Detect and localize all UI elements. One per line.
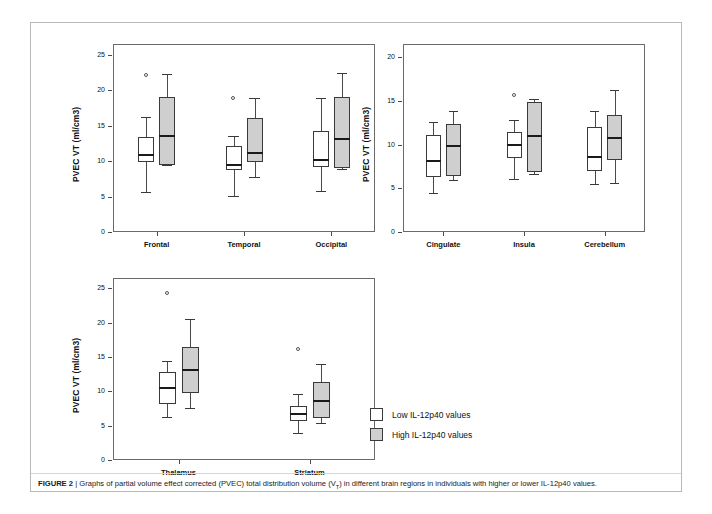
whisker-cap-lower bbox=[590, 184, 600, 185]
y-axis-tick-mark bbox=[398, 57, 402, 58]
y-axis-tick-mark bbox=[108, 323, 112, 324]
box-iqr bbox=[313, 131, 329, 168]
y-axis-tick-label: 0 bbox=[375, 228, 395, 235]
caption-text-part2: ) in different brain regions in individu… bbox=[339, 479, 597, 488]
box-iqr bbox=[426, 135, 441, 177]
chart-legend: Low IL-12p40 values High IL-12p40 values bbox=[370, 408, 472, 448]
whisker-upper bbox=[321, 364, 322, 383]
whisker-lower bbox=[514, 158, 515, 179]
caption-divider bbox=[31, 473, 681, 474]
x-axis-category-label: Cingulate bbox=[403, 240, 483, 249]
y-axis-tick-label: 5 bbox=[85, 193, 105, 200]
whisker-upper bbox=[514, 120, 515, 132]
outlier-point bbox=[165, 291, 169, 295]
whisker-cap-upper bbox=[162, 361, 173, 362]
legend-swatch-low-icon bbox=[370, 408, 383, 421]
whisker-cap-lower bbox=[293, 433, 304, 434]
whisker-cap-upper bbox=[316, 364, 327, 365]
whisker-cap-upper bbox=[293, 394, 304, 395]
y-axis-tick-mark bbox=[398, 101, 402, 102]
whisker-upper bbox=[255, 98, 256, 119]
y-axis-tick-label: 25 bbox=[85, 284, 105, 291]
whisker-cap-lower bbox=[249, 177, 259, 178]
whisker-cap-upper bbox=[610, 90, 620, 91]
whisker-cap-lower bbox=[610, 183, 620, 184]
whisker-cap-lower bbox=[162, 165, 172, 166]
median-line bbox=[159, 387, 176, 389]
x-axis-tick-mark bbox=[244, 232, 245, 236]
y-axis-tick-label: 5 bbox=[375, 184, 395, 191]
whisker-cap-upper bbox=[509, 120, 519, 121]
y-axis-tick-label: 20 bbox=[85, 86, 105, 93]
whisker-cap-lower bbox=[141, 192, 151, 193]
median-line bbox=[446, 145, 461, 147]
y-axis-tick-mark bbox=[108, 126, 112, 127]
whisker-lower bbox=[615, 160, 616, 183]
median-line bbox=[159, 135, 175, 137]
y-axis-tick-label: 15 bbox=[85, 122, 105, 129]
whisker-cap-lower bbox=[429, 193, 439, 194]
whisker-cap-lower bbox=[509, 179, 519, 180]
median-line bbox=[313, 400, 330, 402]
box-iqr bbox=[587, 127, 602, 171]
whisker-cap-upper bbox=[337, 73, 347, 74]
whisker-upper bbox=[167, 74, 168, 97]
whisker-cap-lower bbox=[162, 417, 173, 418]
median-line bbox=[313, 159, 329, 161]
x-axis-tick-mark bbox=[443, 232, 444, 236]
x-axis-tick-mark bbox=[157, 232, 158, 236]
whisker-upper bbox=[146, 117, 147, 137]
whisker-lower bbox=[595, 171, 596, 184]
whisker-cap-upper bbox=[316, 98, 326, 99]
x-axis-category-label: Cerebellum bbox=[565, 240, 645, 249]
box-iqr bbox=[138, 137, 154, 163]
y-axis-tick-mark bbox=[108, 288, 112, 289]
figure-caption: FIGURE 2 | Graphs of partial volume effe… bbox=[38, 479, 678, 491]
y-axis-tick-label: 25 bbox=[85, 51, 105, 58]
median-line bbox=[507, 144, 522, 146]
x-axis-tick-mark bbox=[524, 232, 525, 236]
whisker-upper bbox=[298, 394, 299, 406]
whisker-lower bbox=[433, 177, 434, 193]
whisker-upper bbox=[342, 73, 343, 97]
x-axis-tick-mark bbox=[179, 460, 180, 464]
whisker-cap-lower bbox=[316, 191, 326, 192]
y-axis-tick-label: 20 bbox=[85, 319, 105, 326]
box-iqr bbox=[247, 118, 263, 162]
y-axis-tick-label: 10 bbox=[85, 387, 105, 394]
y-axis-tick-label: 10 bbox=[375, 141, 395, 148]
median-line bbox=[334, 138, 350, 140]
whisker-cap-upper bbox=[449, 111, 459, 112]
box-iqr bbox=[446, 124, 461, 176]
box-iqr bbox=[226, 146, 242, 170]
median-line bbox=[527, 135, 542, 137]
box-iqr bbox=[159, 97, 175, 164]
x-axis-tick-mark bbox=[605, 232, 606, 236]
outlier-point bbox=[296, 347, 300, 351]
whisker-lower bbox=[234, 170, 235, 196]
whisker-cap-upper bbox=[590, 111, 600, 112]
whisker-cap-upper bbox=[141, 117, 151, 118]
figure-root: PVEC VT (ml/cm3)0510152025FrontalTempora… bbox=[0, 0, 712, 514]
plot-area bbox=[113, 278, 375, 460]
caption-separator: | bbox=[75, 479, 77, 488]
whisker-cap-lower bbox=[316, 423, 327, 424]
whisker-cap-upper bbox=[162, 74, 172, 75]
whisker-cap-upper bbox=[529, 99, 539, 100]
whisker-lower bbox=[298, 421, 299, 433]
whisker-lower bbox=[146, 162, 147, 191]
whisker-cap-lower bbox=[449, 180, 459, 181]
y-axis-tick-mark bbox=[108, 197, 112, 198]
y-axis-title: PVEC VT (ml/cm3) bbox=[71, 107, 81, 182]
whisker-lower bbox=[255, 162, 256, 176]
y-axis-tick-label: 0 bbox=[85, 228, 105, 235]
y-axis-tick-label: 15 bbox=[85, 353, 105, 360]
median-line bbox=[247, 152, 263, 154]
whisker-cap-upper bbox=[429, 122, 439, 123]
median-line bbox=[226, 164, 242, 166]
box-iqr bbox=[334, 97, 350, 168]
y-axis-tick-label: 0 bbox=[85, 456, 105, 463]
legend-label-high: High IL-12p40 values bbox=[392, 430, 472, 440]
whisker-lower bbox=[190, 393, 191, 408]
y-axis-tick-mark bbox=[108, 391, 112, 392]
